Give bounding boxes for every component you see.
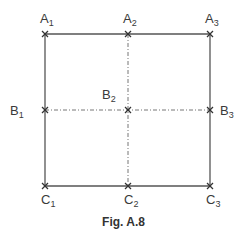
label-C1: C1 (41, 193, 55, 209)
label-A1: A1 (40, 12, 54, 28)
label-C2: C2 (124, 193, 138, 209)
label-A2: A2 (123, 12, 137, 28)
label-C3: C3 (206, 193, 220, 209)
label-B3: B3 (220, 104, 234, 120)
figure-caption: Fig. A.8 (0, 215, 247, 229)
label-B1: B1 (10, 104, 24, 120)
label-A3: A3 (205, 12, 219, 28)
label-B2: B2 (102, 88, 116, 104)
